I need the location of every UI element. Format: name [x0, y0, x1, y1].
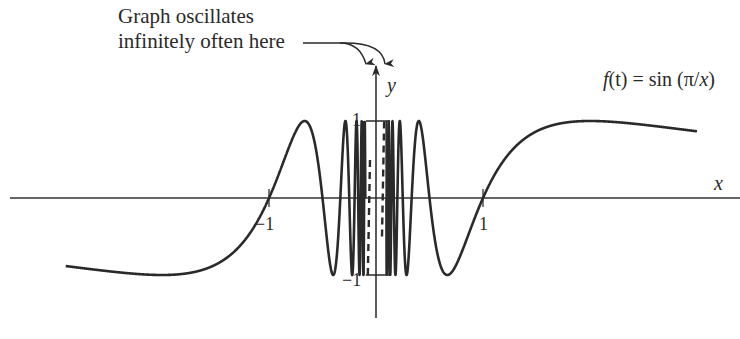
annotation-text: Graph oscillates infinitely often here	[118, 4, 285, 54]
function-var: x	[699, 68, 708, 90]
dashed-oscillation-left	[368, 160, 370, 276]
annotation-arrow-left	[340, 43, 366, 64]
function-close: )	[708, 68, 715, 90]
y-tick-label-neg1: −1	[342, 270, 361, 291]
x-axis-label: x	[714, 172, 723, 195]
function-rhs: = sin (π/	[627, 68, 699, 90]
y-tick-label-pos1: 1	[352, 110, 361, 131]
y-axis-label: y	[387, 74, 396, 97]
annotation-line-1: Graph oscillates	[118, 4, 285, 29]
x-tick-label-neg1: −1	[255, 214, 274, 235]
function-arg: (t)	[609, 68, 628, 90]
x-tick-label-pos1: 1	[479, 214, 488, 235]
function-label: f(t) = sin (π/x)	[603, 68, 715, 91]
dashed-oscillation-right	[382, 121, 384, 237]
graph-canvas	[0, 0, 740, 339]
annotation-line-2: infinitely often here	[118, 29, 285, 54]
